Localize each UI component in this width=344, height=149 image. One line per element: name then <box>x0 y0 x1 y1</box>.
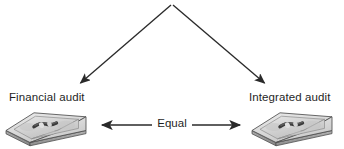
branch-arrow-right <box>173 5 265 83</box>
relation-label-equal-text: Equal <box>152 117 191 129</box>
relationship-diagram: Financial audit Integrated audit Equal <box>0 0 344 149</box>
branch-arrows <box>81 5 265 83</box>
branch-arrow-left <box>81 5 172 83</box>
node-label-financial-audit: Financial audit <box>9 91 85 104</box>
relation-label-equal: Equal <box>0 117 344 130</box>
node-label-integrated-audit: Integrated audit <box>249 91 331 104</box>
